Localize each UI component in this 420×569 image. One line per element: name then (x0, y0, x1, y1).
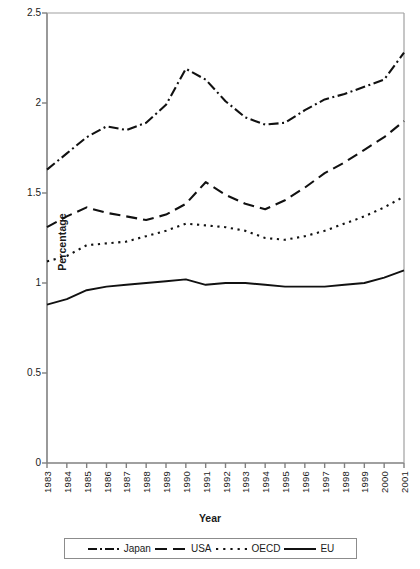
legend-swatch-japan (87, 544, 121, 554)
series-line-eu (47, 270, 404, 304)
legend-label-usa: USA (191, 543, 212, 554)
legend-swatch-eu (283, 544, 317, 554)
legend-label-eu: EU (320, 543, 334, 554)
legend-item-japan: Japan (87, 543, 151, 554)
legend-item-oecd: OECD (215, 543, 281, 554)
legend-item-eu: EU (283, 543, 334, 554)
legend-label-japan: Japan (124, 543, 151, 554)
legend-swatch-oecd (215, 544, 249, 554)
data-series-layer (47, 53, 404, 305)
axis-lines (47, 13, 404, 463)
legend: Japan USA OECD EU (64, 538, 357, 559)
line-chart: Percentage Year 00.511.522.5 19831984198… (0, 0, 420, 569)
legend-swatch-usa (154, 544, 188, 554)
series-line-japan (47, 53, 404, 170)
legend-label-oecd: OECD (252, 543, 281, 554)
legend-item-usa: USA (154, 543, 212, 554)
series-line-oecd (47, 197, 404, 262)
series-line-usa (47, 121, 404, 227)
plot-area (0, 0, 420, 569)
